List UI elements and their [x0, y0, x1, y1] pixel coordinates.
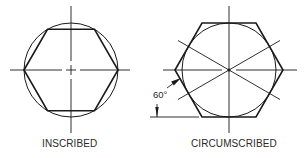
- hexagon-construction-diagram: [0, 0, 306, 158]
- center-point: [227, 68, 230, 71]
- circumscribed-figure: [150, 6, 297, 133]
- inscribed-caption: INSCRIBED: [42, 138, 97, 149]
- angle-annotation: 60°: [153, 89, 167, 100]
- circumscribed-caption: CIRCUMSCRIBED: [191, 138, 277, 149]
- arrowhead-lower-icon: [155, 107, 158, 117]
- inscribed-figure: [10, 6, 130, 133]
